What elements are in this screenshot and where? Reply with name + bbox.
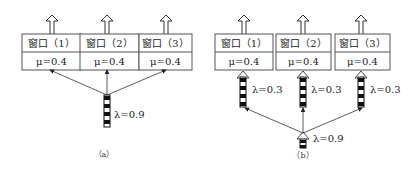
window-title: 窗口（3）	[339, 37, 385, 49]
service-rate: μ=0.4	[36, 56, 67, 67]
sub-arrival-rate-label: λ=0.3	[370, 84, 401, 95]
flow-arrow	[245, 108, 303, 133]
service-rate: μ=0.4	[288, 56, 319, 67]
service-rate: μ=0.4	[229, 56, 260, 67]
service-rate: μ=0.4	[347, 56, 378, 67]
output-arrow-icon	[46, 15, 58, 34]
window-box: 窗口（2） μ=0.4	[80, 34, 139, 70]
service-rate: μ=0.4	[150, 56, 181, 67]
sub-arrival-rate-label: λ=0.3	[311, 84, 342, 95]
queue-diagram: 窗口（1） μ=0.4 窗口（2） μ=0.4 窗口（3） μ=0.4 λ=0.…	[0, 0, 414, 173]
panel-caption: （a）	[94, 150, 115, 159]
window-box: 窗口（3） μ=0.4	[335, 34, 390, 70]
window-box: 窗口（1） μ=0.4	[22, 34, 81, 70]
window-title: 窗口（2）	[280, 37, 326, 49]
window-box: 窗口（1） μ=0.4	[215, 34, 273, 70]
sub-queue-icon	[300, 77, 306, 107]
sub-queue-icon	[240, 77, 246, 107]
sub-arrival-rate-label: λ=0.3	[252, 84, 283, 95]
flow-arrow	[50, 70, 107, 95]
output-arrow-icon	[355, 15, 367, 34]
window-title: 窗口（2）	[86, 37, 132, 49]
arrival-rate-label: λ=0.9	[114, 109, 145, 120]
output-arrow-icon	[238, 15, 250, 34]
input-arrow-icon	[297, 132, 309, 139]
arrival-queue-icon	[300, 139, 306, 148]
output-arrow-icon	[297, 15, 309, 34]
service-rate: μ=0.4	[94, 56, 125, 67]
window-box: 窗口（3） μ=0.4	[139, 34, 192, 70]
window-title: 窗口（1）	[28, 37, 74, 49]
arrival-rate-label: λ=0.9	[313, 133, 344, 144]
output-arrow-icon	[160, 15, 172, 34]
flow-arrow	[303, 108, 362, 133]
window-title: 窗口（1）	[221, 37, 267, 49]
panel-a: 窗口（1） μ=0.4 窗口（2） μ=0.4 窗口（3） μ=0.4 λ=0.…	[22, 15, 192, 159]
flow-arrow	[107, 70, 166, 95]
window-title: 窗口（3）	[142, 37, 188, 49]
sub-queue-icon	[358, 77, 364, 107]
panel-caption: （b）	[292, 151, 313, 160]
arrival-queue-icon	[104, 95, 110, 127]
panel-b: 窗口（1） μ=0.4 窗口（2） μ=0.4 窗口（3） μ=0.4	[215, 15, 401, 160]
window-box: 窗口（2） μ=0.4	[276, 34, 331, 70]
output-arrow-icon	[101, 15, 113, 34]
